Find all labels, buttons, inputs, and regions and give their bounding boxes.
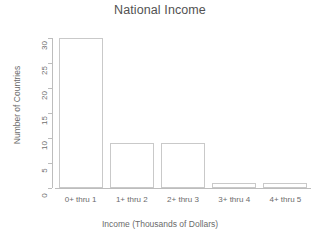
y-tick-label: 0: [40, 188, 49, 204]
y-tick-label: 5: [40, 163, 49, 179]
y-tick-label: 30: [40, 38, 49, 54]
y-tick-mark: [48, 163, 52, 164]
x-tick-label: 2+ thru 3: [157, 195, 208, 204]
bar: [110, 143, 154, 188]
y-tick-mark: [48, 138, 52, 139]
y-tick-mark: [48, 38, 52, 39]
bar: [161, 143, 205, 188]
x-tick-label: 0+ thru 1: [55, 195, 106, 204]
y-tick-label: 20: [40, 88, 49, 104]
x-tick-label: 3+ thru 4: [209, 195, 260, 204]
x-tick-label: 1+ thru 2: [106, 195, 157, 204]
chart-title: National Income: [0, 3, 320, 17]
y-axis-line: [52, 38, 53, 188]
y-tick-mark: [48, 88, 52, 89]
plot-area: 051015202530 0+ thru 11+ thru 22+ thru 3…: [55, 33, 311, 188]
bar: [263, 183, 307, 188]
y-tick-label: 10: [40, 138, 49, 154]
bar: [59, 38, 103, 188]
y-tick-label: 25: [40, 63, 49, 79]
x-axis-line: [55, 188, 311, 189]
x-axis-title: Income (Thousands of Dollars): [0, 219, 320, 229]
y-tick-mark: [48, 113, 52, 114]
x-tick-label: 4+ thru 5: [260, 195, 311, 204]
bar: [212, 183, 256, 188]
y-tick-mark: [48, 63, 52, 64]
y-axis-title: Number of Countries: [12, 30, 22, 180]
y-tick-label: 15: [40, 113, 49, 129]
chart-figure: National Income 051015202530 0+ thru 11+…: [0, 0, 320, 240]
y-tick-mark: [48, 188, 52, 189]
